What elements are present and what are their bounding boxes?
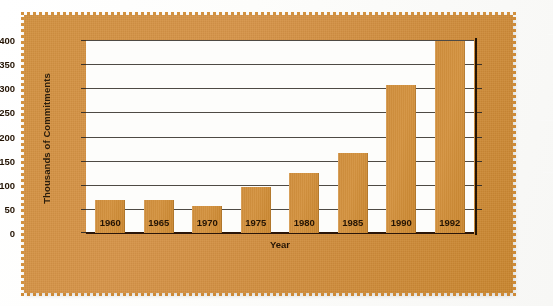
y-tick-label-0: 0	[10, 228, 15, 239]
bar-group-1970	[183, 40, 232, 233]
bar-group-1980	[280, 40, 329, 233]
chart-paper-panel: Thousands of Commitments 400 350 300 250…	[24, 15, 513, 293]
x-axis-title: Year	[86, 239, 474, 250]
x-tick-label-1975: 1975	[245, 217, 266, 228]
y-tick-label-100: 100	[0, 179, 15, 190]
bar-group-1965	[135, 40, 184, 233]
x-tick-label-1990: 1990	[391, 217, 412, 228]
scanned-page: Thousands of Commitments 400 350 300 250…	[0, 0, 553, 306]
plot-area	[86, 40, 474, 233]
bar-group-1990	[377, 40, 426, 233]
bar-1992[interactable]	[435, 41, 465, 233]
y-tick-label-250: 250	[0, 107, 15, 118]
bar-group-1975	[232, 40, 281, 233]
right-axis-spine	[475, 38, 478, 235]
bar-group-1992	[426, 40, 475, 233]
bar-1990[interactable]	[386, 85, 416, 233]
bar-series	[86, 40, 474, 233]
x-tick-label-1965: 1965	[148, 217, 169, 228]
y-tick-label-50: 50	[4, 203, 15, 214]
y-axis-title: Thousands of Commitments	[41, 54, 52, 224]
x-tick-label-1980: 1980	[294, 217, 315, 228]
y-tick-label-200: 200	[0, 131, 15, 142]
bar-group-1960	[86, 40, 135, 233]
bar-group-1985	[329, 40, 378, 233]
x-tick-label-1985: 1985	[342, 217, 363, 228]
y-tick-label-350: 350	[0, 59, 15, 70]
y-tick-label-300: 300	[0, 83, 15, 94]
y-tick-label-150: 150	[0, 155, 15, 166]
x-tick-label-1992: 1992	[439, 217, 460, 228]
x-tick-label-1970: 1970	[197, 217, 218, 228]
x-tick-label-1960: 1960	[100, 217, 121, 228]
bar-chart: Thousands of Commitments 400 350 300 250…	[24, 15, 513, 293]
y-tick-label-400: 400	[0, 35, 15, 46]
